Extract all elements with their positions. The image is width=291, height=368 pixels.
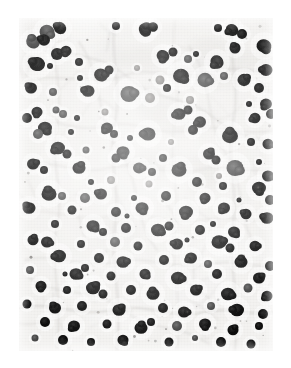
- micrograph-canvas: [19, 18, 273, 351]
- photomicrograph-image: [19, 18, 273, 351]
- figure-page: [0, 0, 291, 368]
